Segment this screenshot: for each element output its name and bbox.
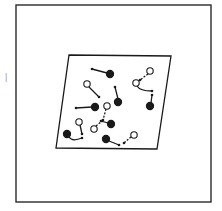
arrow bbox=[124, 137, 131, 143]
open-particle-icon bbox=[76, 119, 82, 125]
open-particle-icon bbox=[84, 81, 90, 87]
arrow bbox=[76, 107, 92, 108]
arrow-head-icon bbox=[151, 90, 154, 93]
outer-frame bbox=[16, 5, 211, 202]
displacement-arrows bbox=[69, 68, 153, 147]
arrow bbox=[103, 109, 106, 120]
arrow-head-icon bbox=[114, 86, 117, 89]
arrow bbox=[80, 125, 82, 134]
filled-particle-icon bbox=[107, 120, 114, 127]
arrow bbox=[115, 87, 118, 99]
filled-particle-icon bbox=[63, 130, 70, 137]
filled-particle-icon bbox=[114, 98, 121, 105]
filled-particle-icon bbox=[106, 70, 113, 77]
arrow bbox=[89, 87, 99, 97]
arrow-head-icon bbox=[101, 120, 104, 123]
filled-particle-icon bbox=[91, 103, 98, 110]
open-particle-icon bbox=[91, 126, 97, 132]
arrow bbox=[140, 74, 148, 80]
filled-particle-icon bbox=[102, 135, 109, 142]
arrow-head-icon bbox=[81, 137, 84, 140]
arrow-head-icon bbox=[98, 96, 101, 99]
arrow-head-icon bbox=[75, 107, 78, 110]
arrow-head-icon bbox=[123, 142, 126, 145]
arrow-head-icon bbox=[151, 94, 154, 97]
open-particle-icon bbox=[147, 68, 153, 74]
arrow-head-icon bbox=[81, 133, 84, 136]
left-margin-mark: | bbox=[5, 72, 7, 82]
arrow bbox=[69, 137, 82, 140]
open-particle-icon bbox=[133, 80, 139, 86]
open-particle-icon bbox=[104, 103, 110, 109]
arrow-head-icon bbox=[91, 68, 94, 71]
open-particle-icon bbox=[131, 132, 137, 138]
arrow bbox=[92, 69, 107, 73]
arrow-head-icon bbox=[118, 144, 121, 147]
plate-parallelogram bbox=[56, 55, 171, 149]
particle-motion-diagram: | bbox=[0, 0, 222, 211]
arrow bbox=[137, 86, 152, 91]
arrow bbox=[109, 141, 119, 145]
filled-particle-icon bbox=[146, 102, 153, 109]
